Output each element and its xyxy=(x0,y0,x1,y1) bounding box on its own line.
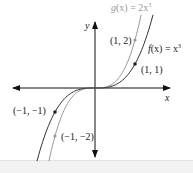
point-neg1-neg2 xyxy=(53,134,56,137)
point-1-2 xyxy=(133,38,136,41)
point-1-1 xyxy=(133,62,137,66)
label-f: f(x) = x3 xyxy=(148,43,181,55)
x-axis-label: x xyxy=(164,92,170,103)
y-axis-label: y xyxy=(84,20,90,31)
point-neg1-neg1 xyxy=(53,110,57,114)
point-label-1-1: (1, 1) xyxy=(141,64,163,76)
cubic-graph: x y g(x) = 2x3 f(x) = x3 (1, 2) (1, 1) (… xyxy=(0,0,193,173)
point-label-neg1-neg1: (−1, −1) xyxy=(13,105,46,117)
point-label-1-2: (1, 2) xyxy=(110,35,132,47)
label-g: g(x) = 2x3 xyxy=(111,2,151,14)
point-label-neg1-neg2: (−1, −2) xyxy=(61,131,94,143)
